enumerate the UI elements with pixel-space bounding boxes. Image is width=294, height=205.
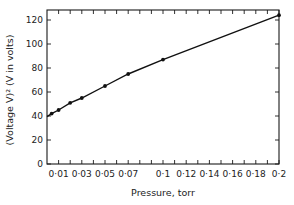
y-tick-label: 0 xyxy=(37,159,43,169)
y-axis-title: (Voltage V)² (V in volts) xyxy=(4,35,15,146)
x-axis-title: Pressure, torr xyxy=(131,187,195,198)
series-line xyxy=(47,15,279,116)
data-point xyxy=(80,96,84,100)
x-tick-label: 0·01 xyxy=(49,169,69,179)
data-point xyxy=(57,108,61,112)
x-tick-label: 0·1 xyxy=(156,169,170,179)
x-tick-label: 0·07 xyxy=(118,169,138,179)
data-point xyxy=(277,13,281,17)
x-tick-label: 0·18 xyxy=(246,169,266,179)
x-tick-label: 0·05 xyxy=(95,169,115,179)
plot-border xyxy=(47,10,279,164)
y-tick-label: 40 xyxy=(32,111,44,121)
y-tick-label: 60 xyxy=(32,87,44,97)
data-point xyxy=(161,58,165,62)
data-point xyxy=(50,112,54,116)
x-tick-label: 0·2 xyxy=(272,169,286,179)
y-tick-label: 80 xyxy=(32,63,44,73)
y-tick-label: 20 xyxy=(32,135,44,145)
x-tick-label: 0·03 xyxy=(72,169,92,179)
x-tick-label: 0·14 xyxy=(199,169,219,179)
data-point xyxy=(103,84,107,88)
chart: 0·010·030·050·070·10·120·140·160·180·2 0… xyxy=(0,0,294,205)
x-tick-label: 0·16 xyxy=(223,169,243,179)
x-tick-label: 0·12 xyxy=(176,169,196,179)
data-point xyxy=(126,72,130,76)
y-axis-ticks: 020406080100120 xyxy=(26,15,279,169)
x-axis-ticks: 0·010·030·050·070·10·120·140·160·180·2 xyxy=(49,10,287,179)
plot-frame xyxy=(47,10,279,164)
data-series xyxy=(47,13,281,116)
y-tick-label: 120 xyxy=(26,15,43,25)
y-tick-label: 100 xyxy=(26,39,43,49)
data-point xyxy=(68,101,72,105)
